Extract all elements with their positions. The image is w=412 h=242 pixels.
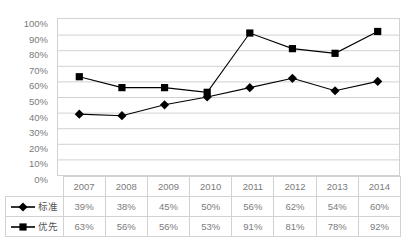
table-cell-value: 53% bbox=[190, 217, 232, 237]
table-column-header: 2009 bbox=[147, 177, 189, 197]
table-head: 20072008200920102011201220132014 bbox=[6, 177, 401, 197]
table-column-header: 2010 bbox=[190, 177, 232, 197]
table-cell-value: 56% bbox=[105, 217, 147, 237]
legend-cell-square: 优先 bbox=[6, 217, 64, 237]
y-axis-tick-label: 40% bbox=[29, 112, 48, 124]
legend-series-label: 优先 bbox=[38, 222, 58, 232]
y-axis-tick-label: 50% bbox=[29, 96, 48, 108]
table-column-header: 2014 bbox=[358, 177, 400, 197]
plot-series-svg bbox=[58, 19, 399, 175]
table-cell-value: 60% bbox=[358, 197, 400, 217]
data-point-marker bbox=[289, 45, 296, 52]
table-column-header: 2008 bbox=[105, 177, 147, 197]
series-line bbox=[79, 31, 377, 92]
data-point-marker bbox=[161, 84, 168, 91]
data-point-marker bbox=[245, 83, 254, 92]
table-corner-cell bbox=[6, 177, 64, 197]
diamond-marker-icon bbox=[10, 202, 36, 212]
table-column-header: 2011 bbox=[232, 177, 274, 197]
data-table: 20072008200920102011201220132014 标准39%38… bbox=[5, 176, 401, 237]
line-chart-figure: 100%90%80%70%60%50%40%30%20%10%0% 200720… bbox=[0, 0, 412, 242]
y-axis-tick-label: 80% bbox=[29, 49, 48, 61]
data-point-marker bbox=[330, 86, 339, 95]
table-cell-value: 91% bbox=[232, 217, 274, 237]
data-point-marker bbox=[246, 29, 253, 36]
table-cell-value: 56% bbox=[147, 217, 189, 237]
table-row: 优先63%56%56%53%91%81%78%92% bbox=[6, 217, 401, 237]
data-point-marker bbox=[160, 100, 169, 109]
table-cell-value: 38% bbox=[105, 197, 147, 217]
data-point-marker bbox=[331, 50, 338, 57]
table-cell-value: 92% bbox=[358, 217, 400, 237]
square-marker-icon bbox=[10, 222, 36, 232]
table-cell-value: 56% bbox=[232, 197, 274, 217]
table-column-header: 2013 bbox=[316, 177, 358, 197]
table-cell-value: 62% bbox=[274, 197, 316, 217]
series-square bbox=[76, 28, 382, 96]
y-axis-tick-label: 20% bbox=[29, 143, 48, 155]
legend-cell-diamond: 标准 bbox=[6, 197, 64, 217]
y-axis-tick-label: 70% bbox=[29, 65, 48, 77]
table-column-header: 2007 bbox=[63, 177, 105, 197]
table-cell-value: 39% bbox=[63, 197, 105, 217]
table-cell-value: 45% bbox=[147, 197, 189, 217]
table-body: 标准39%38%45%50%56%62%54%60%优先63%56%56%53%… bbox=[6, 197, 401, 237]
data-point-marker bbox=[76, 73, 83, 80]
table-cell-value: 50% bbox=[190, 197, 232, 217]
table-cell-value: 78% bbox=[316, 217, 358, 237]
data-point-marker bbox=[75, 110, 84, 119]
y-axis-tick-label: 60% bbox=[29, 80, 48, 92]
y-axis: 100%90%80%70%60%50%40%30%20%10%0% bbox=[0, 12, 52, 176]
table-header-row: 20072008200920102011201220132014 bbox=[6, 177, 401, 197]
y-axis-tick-label: 90% bbox=[29, 34, 48, 46]
table-column-header: 2012 bbox=[274, 177, 316, 197]
table-cell-value: 54% bbox=[316, 197, 358, 217]
plot-area bbox=[57, 18, 400, 176]
data-point-marker bbox=[373, 77, 382, 86]
table-row: 标准39%38%45%50%56%62%54%60% bbox=[6, 197, 401, 217]
y-axis-tick-label: 10% bbox=[29, 158, 48, 170]
table-cell-value: 81% bbox=[274, 217, 316, 237]
data-point-marker bbox=[117, 111, 126, 120]
y-axis-tick-label: 30% bbox=[29, 127, 48, 139]
data-point-marker bbox=[374, 28, 381, 35]
legend-series-label: 标准 bbox=[38, 202, 58, 212]
data-point-marker bbox=[204, 89, 211, 96]
table-cell-value: 63% bbox=[63, 217, 105, 237]
y-axis-tick-label: 100% bbox=[24, 18, 48, 30]
data-point-marker bbox=[118, 84, 125, 91]
chart-title bbox=[0, 0, 412, 4]
